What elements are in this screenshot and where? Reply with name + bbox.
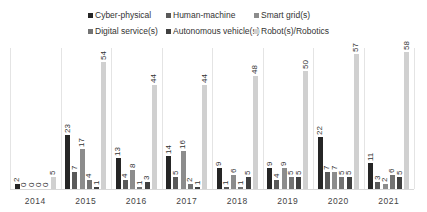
bar <box>238 187 243 189</box>
x-axis-tick-label: 2014 <box>15 196 55 206</box>
bar <box>253 76 258 189</box>
data-label: 1 <box>93 180 101 184</box>
group-separator <box>61 48 62 189</box>
bar <box>289 177 294 189</box>
data-label: 9 <box>215 161 223 165</box>
data-label: 9 <box>280 161 288 165</box>
bar <box>195 187 200 189</box>
data-label: 22 <box>316 126 324 135</box>
bar <box>101 62 106 189</box>
bar <box>94 187 99 189</box>
bar <box>152 85 157 189</box>
data-label: 7 <box>71 166 79 170</box>
x-axis-tick-label: 2016 <box>116 196 156 206</box>
data-label: 50 <box>302 60 310 69</box>
data-label: 5 <box>172 171 180 175</box>
x-axis-tick-label: 2020 <box>318 196 358 206</box>
bar <box>173 177 178 189</box>
data-label: 54 <box>100 51 108 60</box>
bar <box>217 168 222 189</box>
bar <box>296 177 301 189</box>
bar <box>325 172 330 189</box>
x-axis-tick-label: 2015 <box>66 196 106 206</box>
bar <box>137 187 142 189</box>
bar <box>354 54 359 189</box>
data-label: 1 <box>237 180 245 184</box>
bar <box>130 170 135 189</box>
bar <box>72 172 77 189</box>
bar <box>390 175 395 189</box>
group-separator <box>263 48 264 189</box>
bar <box>397 177 402 189</box>
group-separator <box>10 48 11 189</box>
bar <box>246 177 251 189</box>
data-label: 8 <box>129 164 137 168</box>
group-separator <box>111 48 112 189</box>
data-label: 9 <box>266 161 274 165</box>
bar <box>339 177 344 189</box>
bar <box>347 177 352 189</box>
x-axis-tick-label: 2018 <box>217 196 257 206</box>
x-axis-line <box>10 189 414 190</box>
bar <box>383 184 388 189</box>
bar <box>375 182 380 189</box>
x-axis-tick-label: 2021 <box>369 196 409 206</box>
data-label: 4 <box>121 173 129 177</box>
data-label: 48 <box>251 65 259 74</box>
bar <box>274 180 279 189</box>
bar <box>267 168 272 189</box>
bar <box>80 149 85 189</box>
data-label: 16 <box>179 140 187 149</box>
data-label: 11 <box>367 153 375 161</box>
data-label: 2 <box>381 178 389 182</box>
bar <box>51 177 56 189</box>
group-separator <box>212 48 213 189</box>
bar <box>303 71 308 189</box>
data-label: 14 <box>165 145 173 154</box>
x-axis-tick-label: 2017 <box>167 196 207 206</box>
bar-chart-plot-area: 2000052014237174154201513481344201614516… <box>0 0 427 212</box>
data-label: 13 <box>114 147 122 156</box>
bar <box>65 135 70 189</box>
data-label: 4 <box>85 173 93 177</box>
data-label: 5 <box>244 171 252 175</box>
bar <box>202 85 207 189</box>
data-label: 1 <box>222 180 230 184</box>
data-label: 44 <box>150 74 158 83</box>
data-label: 44 <box>201 74 209 83</box>
data-label: 1 <box>136 180 144 184</box>
data-label: 57 <box>352 44 360 53</box>
data-label: 5 <box>49 171 57 175</box>
bar <box>404 52 409 189</box>
bar <box>145 182 150 189</box>
x-axis-tick-label: 2019 <box>268 196 308 206</box>
data-label: 23 <box>64 124 72 133</box>
data-label: 0 <box>42 183 50 187</box>
bar <box>181 151 186 189</box>
data-label: 5 <box>345 171 353 175</box>
bar <box>318 137 323 189</box>
bar <box>224 187 229 189</box>
data-label: 3 <box>143 175 151 179</box>
data-label: 1 <box>194 180 202 184</box>
data-label: 17 <box>78 138 86 147</box>
data-label: 4 <box>273 173 281 177</box>
data-label: 5 <box>295 171 303 175</box>
data-label: 5 <box>396 171 404 175</box>
data-label: 6 <box>230 168 238 172</box>
bar <box>123 180 128 189</box>
group-separator <box>313 48 314 189</box>
group-separator <box>162 48 163 189</box>
group-separator <box>414 48 415 189</box>
group-separator <box>364 48 365 189</box>
data-label: 58 <box>403 41 411 50</box>
